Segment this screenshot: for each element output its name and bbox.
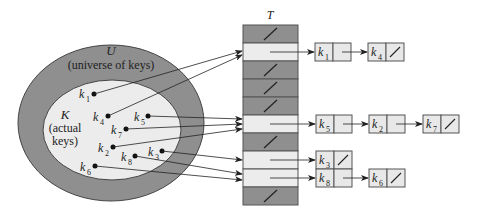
svg-text:k: k bbox=[318, 45, 324, 59]
svg-text:1: 1 bbox=[325, 53, 329, 62]
svg-text:8: 8 bbox=[128, 158, 132, 167]
svg-text:4: 4 bbox=[378, 53, 382, 62]
svg-text:k: k bbox=[319, 153, 325, 167]
actual-keys-caption-1: (actual bbox=[49, 121, 82, 135]
svg-text:7: 7 bbox=[433, 125, 437, 134]
svg-text:k: k bbox=[93, 110, 99, 124]
svg-text:2: 2 bbox=[379, 125, 383, 134]
svg-text:3: 3 bbox=[155, 153, 159, 162]
svg-text:k: k bbox=[319, 171, 325, 185]
node-k3: k 3 bbox=[316, 151, 352, 170]
svg-text:k: k bbox=[79, 87, 85, 101]
svg-text:6: 6 bbox=[87, 168, 91, 177]
svg-text:k: k bbox=[111, 123, 117, 137]
svg-text:2: 2 bbox=[105, 149, 109, 158]
svg-text:5: 5 bbox=[141, 118, 145, 127]
table-label: T bbox=[267, 8, 275, 22]
actual-keys-caption-2: keys) bbox=[52, 134, 78, 148]
universe-symbol: U bbox=[106, 43, 117, 58]
svg-text:8: 8 bbox=[326, 179, 330, 188]
node-k6: k 6 bbox=[369, 169, 405, 188]
universe-caption: (universe of keys) bbox=[68, 58, 155, 72]
actual-keys-symbol: K bbox=[60, 107, 71, 122]
svg-text:k: k bbox=[372, 117, 378, 131]
node-k8: k 8 bbox=[316, 169, 352, 188]
node-k5: k 5 bbox=[316, 115, 352, 134]
hash-table-diagram: U (universe of keys) K (actual keys) k 1… bbox=[0, 0, 477, 214]
svg-text:7: 7 bbox=[118, 131, 122, 140]
svg-text:k: k bbox=[372, 171, 378, 185]
svg-text:k: k bbox=[426, 117, 432, 131]
svg-text:1: 1 bbox=[86, 95, 90, 104]
node-k2: k 2 bbox=[369, 115, 405, 134]
svg-text:k: k bbox=[98, 141, 104, 155]
node-k7: k 7 bbox=[423, 115, 459, 134]
node-k4: k 4 bbox=[368, 43, 404, 62]
svg-text:5: 5 bbox=[326, 125, 330, 134]
svg-text:6: 6 bbox=[379, 179, 383, 188]
node-k1: k 1 bbox=[315, 43, 351, 62]
svg-text:k: k bbox=[371, 45, 377, 59]
svg-text:k: k bbox=[319, 117, 325, 131]
svg-text:k: k bbox=[80, 160, 86, 174]
svg-text:k: k bbox=[134, 110, 140, 124]
svg-text:k: k bbox=[121, 150, 127, 164]
svg-text:4: 4 bbox=[100, 118, 104, 127]
svg-text:k: k bbox=[148, 145, 154, 159]
